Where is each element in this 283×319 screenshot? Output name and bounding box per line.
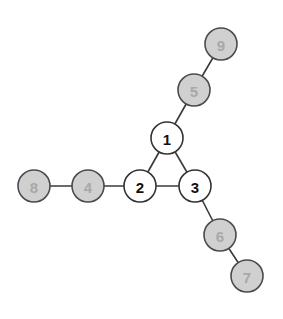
node-label: 1 [163,131,171,148]
node-7: 7 [231,260,263,292]
node-label: 2 [136,179,144,196]
node-label: 8 [30,179,38,196]
node-label: 4 [84,179,93,196]
node-4: 4 [72,170,104,202]
node-label: 9 [217,37,225,54]
node-5: 5 [178,74,210,106]
node-label: 7 [243,269,251,286]
node-9: 9 [205,28,237,60]
node-3: 3 [179,170,211,202]
node-2: 2 [124,170,156,202]
node-label: 6 [216,228,224,245]
node-1: 1 [151,122,183,154]
node-label: 5 [190,83,198,100]
graph-diagram: 123456789 [0,0,283,319]
node-label: 3 [191,179,199,196]
node-6: 6 [204,219,236,251]
node-8: 8 [18,170,50,202]
nodes: 123456789 [18,28,263,292]
